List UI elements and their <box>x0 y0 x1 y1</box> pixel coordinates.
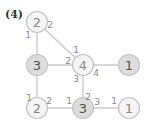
node-b: 3 <box>27 55 48 76</box>
edge-label: 1 <box>26 93 32 103</box>
edge-label: 3 <box>73 74 79 84</box>
edge-label: 2 <box>46 96 52 106</box>
edge-label: 1 <box>73 45 79 55</box>
node-value: 1 <box>125 58 133 73</box>
node-d: 1 <box>119 55 140 76</box>
edge-label: 1 <box>66 96 72 106</box>
node-g: 1 <box>119 98 140 119</box>
edge-label: 4 <box>93 68 99 78</box>
edge-label: 1 <box>111 96 117 106</box>
edge-label: 3 <box>94 97 100 107</box>
problem-label: (4) <box>5 8 23 21</box>
node-value: 2 <box>33 15 41 30</box>
node-value: 1 <box>125 101 133 116</box>
node-value: 2 <box>33 101 41 116</box>
edge-label: 2 <box>65 56 71 66</box>
node-value: 4 <box>79 58 87 73</box>
node-value: 3 <box>33 58 41 73</box>
node-c: 4 <box>73 55 94 76</box>
nodes: 2341231 <box>27 12 140 119</box>
edge-label: 2 <box>47 20 53 30</box>
graph-diagram: (4) 2341231 121243121231 <box>0 0 147 130</box>
edge-label: 2 <box>85 92 91 102</box>
node-value: 3 <box>79 101 87 116</box>
edge-label: 1 <box>25 30 31 40</box>
